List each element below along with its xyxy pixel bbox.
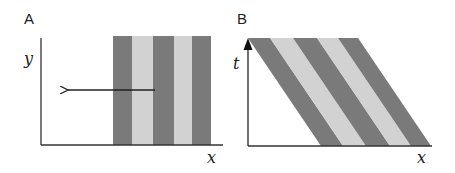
panel-a: A y x (23, 10, 223, 167)
diagram-canvas: A y x B t x (0, 0, 455, 173)
y-axis-label: y (23, 49, 34, 68)
x-axis-label: x (417, 148, 426, 167)
stripe-dark-2 (153, 36, 174, 145)
panel-b: B t x (233, 10, 432, 167)
stripe-light-2 (174, 36, 192, 145)
t-axis-label: t (233, 54, 240, 73)
diagonal-bands (248, 38, 431, 146)
panel-a-label: A (24, 10, 34, 27)
stripe-dark-3 (192, 36, 211, 145)
panel-b-label: B (237, 10, 247, 27)
x-axis-label: x (207, 148, 216, 167)
